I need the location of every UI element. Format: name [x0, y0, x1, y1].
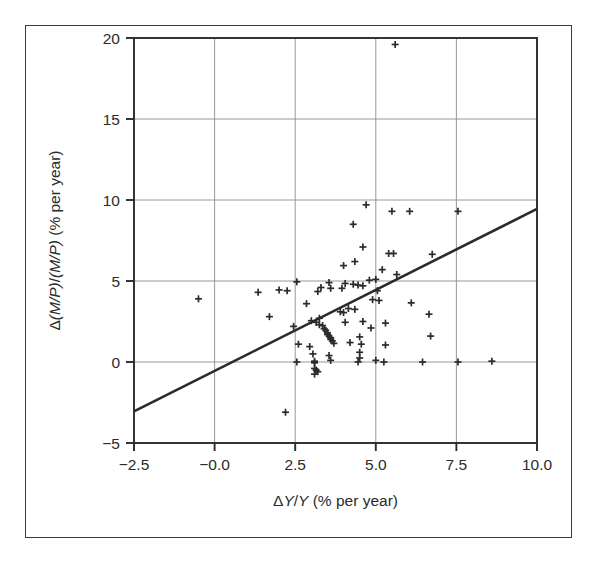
data-point [369, 296, 376, 303]
data-point [372, 276, 379, 283]
data-point [380, 359, 387, 366]
y-tick-label: 0 [111, 354, 120, 371]
data-point [406, 208, 413, 215]
regression-line [134, 209, 537, 412]
data-point [266, 313, 273, 320]
data-point [293, 359, 300, 366]
data-point [455, 359, 462, 366]
axis-ticks [126, 38, 537, 451]
data-point [293, 278, 300, 285]
data-point [367, 324, 374, 331]
data-point [351, 306, 358, 313]
data-point [372, 357, 379, 364]
y-axis-tick-labels: −505101520 [102, 30, 120, 452]
data-point [309, 350, 316, 357]
y-axis-title: Δ(M/P)/(M/P) (% per year) [46, 150, 63, 330]
data-point [390, 250, 397, 257]
data-point [358, 341, 365, 348]
data-point [382, 341, 389, 348]
data-point [195, 295, 202, 302]
data-point [342, 319, 349, 326]
x-tick-label: 10.0 [522, 456, 553, 473]
data-point [306, 343, 313, 350]
data-point [356, 333, 363, 340]
x-axis-tick-labels: −2.5−0.02.55.07.510.0 [119, 456, 553, 473]
x-tick-label: 2.5 [284, 456, 306, 473]
data-point [388, 208, 395, 215]
data-point [425, 311, 432, 318]
x-tick-label: 7.5 [446, 456, 468, 473]
data-point [295, 341, 302, 348]
data-point [359, 318, 366, 325]
x-tick-label: −0.0 [199, 456, 230, 473]
data-point [351, 258, 358, 265]
data-point [382, 320, 389, 327]
data-point [284, 287, 291, 294]
x-axis-title-text: ΔY/Y (% per year) [273, 492, 398, 509]
x-tick-label: −2.5 [119, 456, 150, 473]
data-point [350, 221, 357, 228]
data-point [376, 297, 383, 304]
y-tick-label: 10 [103, 192, 121, 209]
data-point [392, 41, 399, 48]
data-point [429, 251, 436, 258]
y-axis-title-text: Δ(M/P)/(M/P) (% per year) [46, 150, 63, 330]
data-point [359, 243, 366, 250]
trendline [134, 209, 537, 412]
data-point [408, 299, 415, 306]
y-tick-label: 20 [103, 30, 121, 47]
data-point [276, 286, 283, 293]
data-point [366, 277, 373, 284]
data-point [427, 333, 434, 340]
data-point [303, 300, 310, 307]
data-point [340, 262, 347, 269]
y-tick-label: −5 [102, 435, 120, 452]
scatter-plot: −2.5−0.02.55.07.510.0 −505101520 ΔY/Y (%… [0, 0, 600, 572]
figure-root: −2.5−0.02.55.07.510.0 −505101520 ΔY/Y (%… [0, 0, 600, 572]
data-point [347, 339, 354, 346]
y-tick-label: 15 [103, 111, 120, 128]
y-tick-label: 5 [111, 273, 120, 290]
data-point [359, 282, 366, 289]
data-point [419, 359, 426, 366]
x-axis-title: ΔY/Y (% per year) [273, 492, 398, 509]
data-point [455, 208, 462, 215]
data-point [255, 289, 262, 296]
data-point [363, 201, 370, 208]
x-tick-label: 5.0 [365, 456, 387, 473]
data-point [282, 409, 289, 416]
data-point [488, 358, 495, 365]
data-point [379, 266, 386, 273]
